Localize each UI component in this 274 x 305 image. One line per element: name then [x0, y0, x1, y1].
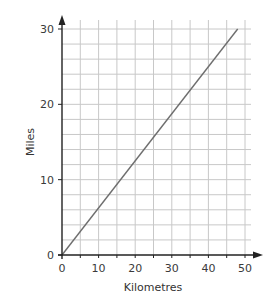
x-tick-label: 50: [238, 262, 252, 275]
y-axis-label: Miles: [24, 128, 37, 156]
y-tick-label: 20: [40, 98, 54, 111]
x-tick-label: 10: [92, 262, 106, 275]
grid-lines: [62, 20, 251, 255]
y-tick-label: 0: [47, 249, 54, 262]
x-tick-label: 0: [59, 262, 66, 275]
y-axis-arrow-icon: [59, 15, 66, 25]
tick-labels: 010203040500102030: [40, 23, 252, 275]
axes: [58, 15, 263, 259]
x-axis-arrow-icon: [253, 252, 263, 259]
data-series: [62, 29, 238, 255]
x-tick-label: 30: [165, 262, 179, 275]
x-tick-label: 40: [201, 262, 215, 275]
y-tick-label: 10: [40, 174, 54, 187]
x-axis-label: Kilometres: [124, 281, 183, 294]
conversion-chart: 010203040500102030 Kilometres Miles: [0, 0, 274, 305]
conversion-line: [62, 29, 238, 255]
x-tick-label: 20: [128, 262, 142, 275]
y-tick-label: 30: [40, 23, 54, 36]
